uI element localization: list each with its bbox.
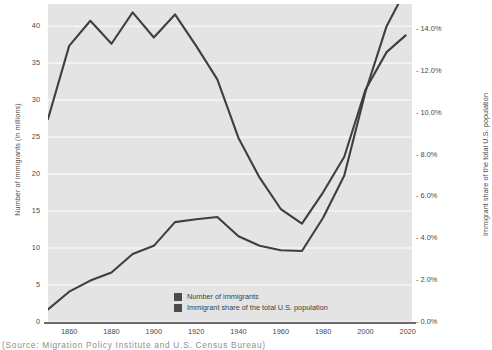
y-axis-right-tick-label: - 10.0% [416,108,456,117]
y-axis-left-tick-label: 10 [14,243,40,252]
y-axis-left-tick-label: 20 [14,169,40,178]
x-axis-tick-label: 1960 [261,327,301,336]
x-axis-tick-label: 1920 [176,327,216,336]
x-axis-tick-label: 1860 [49,327,89,336]
y-axis-left-tick-label: 30 [14,95,40,104]
y-axis-left-tick-label: 15 [14,206,40,215]
data-line-share [48,12,406,223]
data-line-count [48,4,406,309]
legend-item-label: Immigrant share of the total U.S. popula… [187,303,328,312]
y-axis-right-tick-label: - 4.0% [416,233,456,242]
legend-item-immigrant-share: Immigrant share of the total U.S. popula… [174,303,328,312]
x-axis-tick-label: 2000 [345,327,385,336]
y-axis-right-tick-label: - 6.0% [416,191,456,200]
x-axis-tick-label: 1880 [91,327,131,336]
y-axis-left-tick-label: 5 [14,280,40,289]
y-axis-left-tick-label: 25 [14,132,40,141]
y-axis-left-tick-label: 35 [14,58,40,67]
x-axis-tick-label: 1940 [218,327,258,336]
y-axis-right-tick-label: - 14.0% [416,24,456,33]
data-lines [48,4,406,309]
legend-swatch-icon [174,293,182,301]
gridlines [48,26,412,322]
y-axis-left-tick-label: 40 [14,21,40,30]
y-axis-right-tick-label: - 0.0% [416,317,456,326]
legend-item-number-of-immigrants: Number of immigrants [174,292,328,301]
x-axis-tick-label: 1980 [303,327,343,336]
legend-item-label: Number of immigrants [187,292,259,301]
chart-legend: Number of immigrants Immigrant share of … [174,292,328,312]
plot-area [48,4,412,322]
source-note: (Source: Migration Policy Institute and … [2,340,266,350]
y-axis-right-tick-label: - 2.0% [416,275,456,284]
y-axis-left-tick-label: 0 [14,317,40,326]
x-axis-tick-label: 2020 [388,327,428,336]
y-axis-right-tick-label: - 12.0% [416,66,456,75]
y-axis-right-title: Immigrant share of the total U.S. popula… [481,77,490,252]
y-axis-right-tick-label: - 8.0% [416,150,456,159]
plot-svg [48,4,412,322]
x-axis-tick-label: 1900 [134,327,174,336]
legend-swatch-icon [174,304,182,312]
x-axis-line [44,322,416,324]
